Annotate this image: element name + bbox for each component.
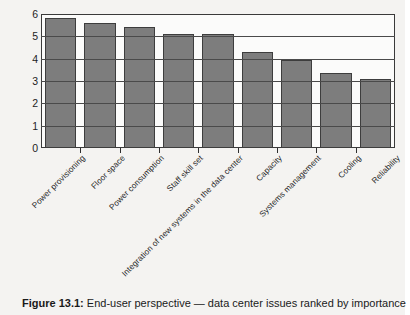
x-axis-label: Floor space [91, 155, 128, 192]
bar-slot [238, 14, 277, 148]
y-axis-tick-label: 4 [20, 53, 38, 64]
x-axis-label: Staff skill set [167, 155, 207, 195]
bar [163, 34, 194, 148]
bar [45, 18, 76, 148]
bar-slot [277, 14, 316, 148]
x-axis-label-text: Capacity [254, 154, 283, 183]
bar-slot [80, 14, 119, 148]
chart-plot-area [41, 14, 395, 148]
bar-slot [198, 14, 237, 148]
bar-slot [159, 14, 198, 148]
y-axis-tick-label: 1 [20, 120, 38, 131]
bar [124, 27, 155, 148]
bar [281, 60, 312, 148]
bar-slot [356, 14, 395, 148]
x-axis-tick-marks [41, 148, 395, 154]
bar [360, 79, 391, 148]
x-axis-label: Cooling [338, 155, 364, 181]
x-axis-tick [80, 148, 81, 153]
y-axis-tick-label: 0 [20, 143, 38, 154]
x-axis-label: Power provisioning [32, 155, 89, 212]
bar [202, 34, 233, 148]
figure-caption-text: End-user perspective — data center issue… [84, 297, 406, 309]
bar-slot [316, 14, 355, 148]
x-axis-label-text: Staff skill set [165, 154, 205, 194]
x-axis-tick [316, 148, 317, 153]
x-axis-category-labels: Power provisioningFloor spacePower consu… [41, 155, 395, 295]
x-axis-label-text: Power provisioning [31, 154, 88, 211]
x-axis-label: Reliability [371, 155, 403, 187]
bar-slot [120, 14, 159, 148]
x-axis-label: Capacity [256, 155, 285, 184]
x-axis-label-text: Reliability [370, 154, 402, 186]
y-axis-tick-label: 6 [20, 9, 38, 20]
bar [84, 23, 115, 148]
x-axis-label-text: Floor space [89, 154, 126, 191]
y-axis-tick-labels: 0123456 [20, 14, 38, 148]
y-axis-tick-label: 2 [20, 98, 38, 109]
bar [320, 73, 351, 148]
figure-caption: Figure 13.1: End-user perspective — data… [22, 297, 410, 310]
y-axis-tick-label: 3 [20, 76, 38, 87]
x-axis-tick [198, 148, 199, 153]
bar-slot [41, 14, 80, 148]
bar [242, 52, 273, 148]
bars-layer [41, 14, 395, 148]
x-axis-label-text: Cooling [336, 154, 362, 180]
y-axis-tick-label: 5 [20, 31, 38, 42]
figure-caption-label: Figure 13.1: [22, 297, 84, 309]
